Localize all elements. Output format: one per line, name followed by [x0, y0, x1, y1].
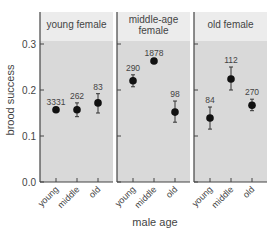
- sample-size-label: 112: [224, 55, 238, 65]
- data-point: [206, 114, 214, 122]
- data-point: [248, 101, 256, 109]
- x-tick-label: old: [241, 184, 257, 200]
- data-point: [129, 77, 137, 85]
- sample-size-label: 83: [93, 82, 103, 92]
- x-tick-label: middle: [56, 184, 82, 210]
- sample-size-label: 262: [70, 91, 84, 101]
- panel-title: young female: [46, 19, 106, 30]
- data-point: [171, 108, 179, 116]
- panel-title: middle-age: [129, 14, 179, 25]
- data-point: [150, 57, 158, 65]
- data-point: [52, 106, 60, 114]
- y-tick-label: 0.3: [22, 39, 36, 50]
- y-tick-label: 0.0: [22, 177, 36, 188]
- x-axis-label: male age: [132, 216, 177, 228]
- data-point: [94, 99, 102, 107]
- y-tick-label: 0.1: [22, 131, 36, 142]
- y-axis-label: brood success: [4, 64, 16, 135]
- data-point: [73, 106, 81, 114]
- sample-size-label: 98: [170, 89, 180, 99]
- x-tick-label: old: [164, 184, 180, 200]
- panel-title: female: [138, 25, 168, 36]
- sample-size-label: 84: [205, 95, 215, 105]
- sample-size-label: 3331: [47, 97, 66, 107]
- sample-size-label: 270: [245, 87, 259, 97]
- data-point: [227, 75, 235, 83]
- y-tick-label: 0.2: [22, 85, 36, 96]
- panel-3: old femaleyoungmiddleold84112270: [190, 12, 267, 210]
- x-tick-label: old: [87, 184, 103, 200]
- x-tick-label: middle: [133, 184, 159, 210]
- sample-size-label: 290: [126, 63, 140, 73]
- faceted-chart: young femaleyoungmiddleold333126283middl…: [0, 0, 275, 237]
- panel-2: middle-agefemaleyoungmiddleold290187898: [113, 12, 190, 210]
- x-tick-label: middle: [210, 184, 236, 210]
- panel-title: old female: [207, 19, 254, 30]
- panel-1: young femaleyoungmiddleold333126283: [36, 12, 113, 210]
- sample-size-label: 1878: [145, 48, 164, 58]
